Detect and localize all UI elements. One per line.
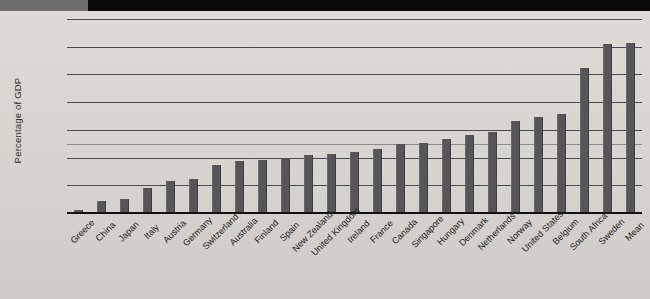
bar-slot [435,19,458,213]
bar [511,121,520,213]
plot-area: 0.35%0.30%0.25%0.20%0.15%0.10%0.05%0.00 [67,19,642,213]
bar-slot [182,19,205,213]
x-tick-slot: Japan [113,224,136,299]
x-tick-slot: Germany [182,224,205,299]
x-tick-slot: China [90,224,113,299]
bar [557,114,566,213]
bar-slot [205,19,228,213]
chart-sheet: Percentage of GDP 0.35%0.30%0.25%0.20%0.… [0,11,650,299]
bar [580,68,589,213]
bar-slot [458,19,481,213]
bar [534,117,543,213]
x-tick-slot: Netherlands [481,224,504,299]
bar [189,179,198,213]
x-tick-slot: Ireland [343,224,366,299]
bar [626,43,635,213]
bar-slot [412,19,435,213]
bar [120,199,129,213]
bar-slot [619,19,642,213]
x-tick-slot: Greece [67,224,90,299]
bar-slot [228,19,251,213]
x-tick-slot: Spain [274,224,297,299]
bar [258,160,267,213]
bar [235,161,244,213]
bar-slot [504,19,527,213]
x-axis-tick-label: Italy [142,222,161,241]
bar-slot [159,19,182,213]
x-tick-slot: France [366,224,389,299]
bar [281,159,290,213]
x-tick-slot: Mean [619,224,642,299]
bar-slot [366,19,389,213]
bar [488,132,497,213]
bar [603,44,612,213]
x-tick-slot: New Zealand [297,224,320,299]
x-tick-slot: Austria [159,224,182,299]
bar-slot [90,19,113,213]
x-tick-slot: United Kingdom [320,224,343,299]
bar [212,165,221,213]
bar-slot [297,19,320,213]
x-axis-tick-label: Mean [623,220,646,243]
bar [327,154,336,213]
y-axis-title: Percentage of GDP [12,51,23,191]
bar-slot [596,19,619,213]
bar-slot [550,19,573,213]
x-tick-slot: Switzerland [205,224,228,299]
bar-slot [481,19,504,213]
bar-slot [573,19,596,213]
x-tick-slot: Canada [389,224,412,299]
bar-slot [389,19,412,213]
bar [304,155,313,213]
bar [373,149,382,213]
bar-slot [113,19,136,213]
x-tick-slot: Australia [228,224,251,299]
bar [350,152,359,213]
bar-slot [527,19,550,213]
x-tick-slot: South Africa [573,224,596,299]
x-tick-slot: Singapore [412,224,435,299]
x-tick-slot: Finland [251,224,274,299]
x-tick-slot: Belgium [550,224,573,299]
x-axis-tick-labels: GreeceChinaJapanItalyAustriaGermanySwitz… [67,224,642,299]
bar-slot [343,19,366,213]
bar-slot [251,19,274,213]
bar [419,143,428,213]
header-strip-accent [0,0,88,11]
bar [143,188,152,213]
bar-slot [67,19,90,213]
bar-slot [274,19,297,213]
x-tick-slot: Denmark [458,224,481,299]
x-tick-slot: United States [527,224,550,299]
x-tick-slot: Hungary [435,224,458,299]
x-tick-slot: Sweden [596,224,619,299]
header-strip [0,0,650,11]
bar-slot [136,19,159,213]
x-tick-slot: Norway [504,224,527,299]
bar-series [67,19,642,213]
chart-figure: Percentage of GDP 0.35%0.30%0.25%0.20%0.… [0,0,650,299]
bar-slot [320,19,343,213]
bar [396,144,405,213]
bar [465,135,474,213]
bar [442,139,451,213]
x-tick-slot: Italy [136,224,159,299]
bar [166,181,175,213]
